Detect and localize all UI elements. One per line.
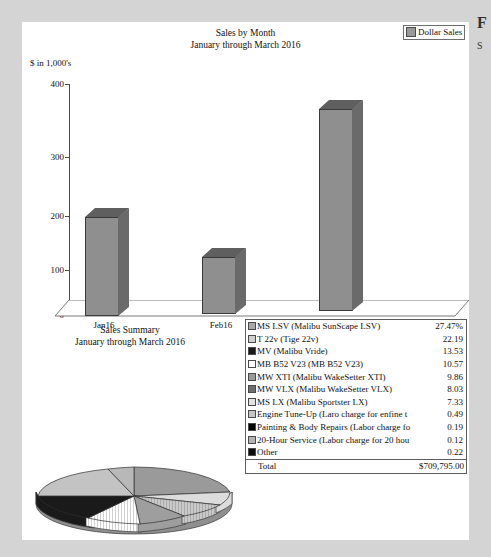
table-row: 20-Hour Service (Labor charge for 20 hou… <box>246 433 466 446</box>
edge-text-line1: F <box>477 14 487 32</box>
series-value: 0.49 <box>447 409 464 419</box>
table-row: MV (Malibu Vride)13.53 <box>246 345 466 358</box>
bar-mar16-front <box>319 109 353 311</box>
total-label: Total <box>258 461 419 471</box>
table-row: MW XTI (Malibu WakeSetter XTI)9.86 <box>246 370 466 383</box>
series-swatch-icon <box>248 410 256 418</box>
edge-text-line2: S <box>477 40 483 51</box>
table-row: T 22v (Tige 22v)22.19 <box>246 333 466 346</box>
sales-summary-table: MS LSV (Malibu SunScape LSV)27.47%T 22v … <box>245 319 467 474</box>
table-row: MW VLX (Malibu WakeSetter VLX)8.03 <box>246 383 466 396</box>
series-label: Painting & Body Repairs (Labor charge fo <box>257 422 447 432</box>
y-axis-line <box>69 84 70 316</box>
series-value: 0.22 <box>447 447 464 457</box>
series-value: 13.53 <box>443 346 464 356</box>
series-value: 7.33 <box>447 397 464 407</box>
series-label: MW VLX (Malibu WakeSetter VLX) <box>257 384 447 394</box>
pie-chart-svg <box>34 466 234 538</box>
bar-mar16 <box>319 100 363 311</box>
bar-feb16-front <box>202 257 236 314</box>
series-value: 27.47% <box>435 321 464 331</box>
table-row: Other0.22 <box>246 446 466 459</box>
series-swatch-icon <box>248 385 256 393</box>
summary-panel: Sales Summary January through March 2016… <box>22 318 469 540</box>
table-total-row: Total $709,795.00 <box>246 459 466 473</box>
bar-jan16-front <box>85 217 119 316</box>
y-tick-200: 200 <box>38 211 64 221</box>
series-label: 20-Hour Service (Labor charge for 20 hou <box>257 435 447 445</box>
series-swatch-icon <box>248 423 256 431</box>
table-row: MB B52 V23 (MB B52 V23)10.57 <box>246 358 466 371</box>
y-tick-300: 300 <box>38 152 64 162</box>
series-value: 9.86 <box>447 372 464 382</box>
series-label: MS LX (Malibu Sportster LX) <box>257 397 447 407</box>
table-row: Painting & Body Repairs (Labor charge fo… <box>246 421 466 434</box>
series-value: 22.19 <box>443 334 464 344</box>
summary-subtitle: January through March 2016 <box>22 336 238 348</box>
y-tick-100: 100 <box>38 265 64 275</box>
series-value: 0.19 <box>447 422 464 432</box>
bar-jan16-side <box>118 208 129 316</box>
pie-chart <box>34 466 234 538</box>
bar-mar16-side <box>352 100 363 311</box>
series-label: Other <box>257 447 447 457</box>
table-row: Engine Tune-Up (Laro charge for enfine t… <box>246 408 466 421</box>
series-swatch-icon <box>248 373 256 381</box>
table-body: MS LSV (Malibu SunScape LSV)27.47%T 22v … <box>246 320 466 459</box>
series-label: MB B52 V23 (MB B52 V23) <box>257 359 443 369</box>
y-tickmark-100 <box>65 270 70 271</box>
series-label: MS LSV (Malibu SunScape LSV) <box>257 321 435 331</box>
series-swatch-icon <box>248 322 256 330</box>
series-swatch-icon <box>248 448 256 456</box>
series-swatch-icon <box>248 335 256 343</box>
series-swatch-icon <box>248 398 256 406</box>
bar-plot-area: 400 300 200 100 0 Jan16 <box>22 22 469 318</box>
series-label: MV (Malibu Vride) <box>257 346 443 356</box>
series-label: MW XTI (Malibu WakeSetter XTI) <box>257 372 447 382</box>
series-value: 0.12 <box>447 435 464 445</box>
total-value: $709,795.00 <box>419 461 464 471</box>
series-label: Engine Tune-Up (Laro charge for enfine t <box>257 409 447 419</box>
y-tickmark-200 <box>65 216 70 217</box>
y-tickmark-400 <box>65 84 70 85</box>
summary-title: Sales Summary <box>22 324 238 336</box>
y-tick-400: 400 <box>38 79 64 89</box>
series-label: T 22v (Tige 22v) <box>257 334 443 344</box>
bar-jan16 <box>85 208 129 316</box>
series-swatch-icon <box>248 436 256 444</box>
report-page: Sales by Month January through March 201… <box>22 22 469 540</box>
series-swatch-icon <box>248 360 256 368</box>
series-swatch-icon <box>248 347 256 355</box>
y-tickmark-300 <box>65 157 70 158</box>
table-row: MS LSV (Malibu SunScape LSV)27.47% <box>246 320 466 333</box>
bar-feb16-side <box>235 248 246 314</box>
series-value: 8.03 <box>447 384 464 394</box>
table-row: MS LX (Malibu Sportster LX)7.33 <box>246 396 466 409</box>
bar-chart-panel: Sales by Month January through March 201… <box>22 22 469 318</box>
bar-feb16 <box>202 248 246 314</box>
series-value: 10.57 <box>443 359 464 369</box>
